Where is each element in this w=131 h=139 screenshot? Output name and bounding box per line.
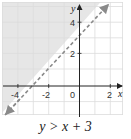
- y-tick-label-4: 4: [70, 18, 75, 28]
- y-axis-label: y: [70, 3, 76, 14]
- x-tick-label-2: 2: [107, 90, 112, 100]
- origin-label: 0: [70, 90, 75, 100]
- x-tick-label-neg2: -2: [42, 90, 50, 100]
- inequality-caption: y > x + 3: [0, 119, 131, 135]
- x-tick-label-neg4: -4: [11, 90, 19, 100]
- x-axis-label: x: [117, 88, 123, 99]
- y-tick-label-2: 2: [70, 49, 75, 59]
